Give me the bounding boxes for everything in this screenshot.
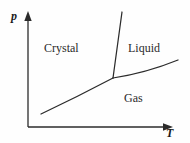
gas-region-label: Gas — [124, 92, 143, 104]
crystal-region-label: Crystal — [44, 42, 79, 54]
liquid-region-label: Liquid — [128, 42, 160, 54]
temperature-axis-label: T — [166, 127, 173, 139]
phase-diagram-canvas — [0, 0, 190, 143]
pressure-axis-label: p — [11, 10, 17, 22]
melting-curve — [113, 12, 122, 78]
phase-boundary-curves — [41, 12, 178, 114]
sublimation-curve — [41, 78, 113, 114]
axes-group — [24, 11, 173, 131]
vaporization-curve — [113, 60, 178, 78]
phase-diagram-figure: p T Crystal Liquid Gas — [0, 0, 190, 143]
pressure-axis-arrowhead — [24, 11, 31, 21]
